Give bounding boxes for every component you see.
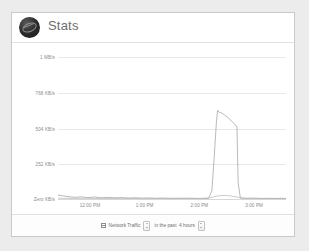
y-axis-label: 252 KB/s <box>36 162 58 167</box>
page-title: Stats <box>48 18 79 33</box>
x-axis-label: 3:00 PM <box>245 203 263 208</box>
y-axis-label: 768 KB/s <box>36 90 58 95</box>
avatar-circle-icon <box>19 17 40 38</box>
stats-panel: Stats 1 MB/s768 KB/s504 KB/s252 KB/sZero… <box>11 12 295 237</box>
range-value: 4 hours <box>179 223 195 228</box>
x-axis-label: 12:00 PM <box>80 203 100 208</box>
series-line <box>58 110 286 198</box>
chart-icon <box>101 223 106 228</box>
chart-area: 1 MB/s768 KB/s504 KB/s252 KB/sZero KB/s … <box>12 43 294 214</box>
time-range-selector[interactable]: in the past 4 hours <box>154 221 205 231</box>
range-stepper-icon[interactable] <box>198 221 206 231</box>
y-axis-label: Zero KB/s <box>34 197 58 202</box>
metric-label: Network Traffic <box>108 223 140 228</box>
y-axis-label: 504 KB/s <box>36 127 58 132</box>
chart-controls-bar: Network Traffic in the past 4 hours <box>12 214 294 236</box>
chart-x-axis: 12:00 PM1:00 PM2:00 PM3:00 PM <box>58 203 286 213</box>
past-label: in the past <box>154 223 176 228</box>
metric-selector[interactable]: Network Traffic <box>101 221 150 231</box>
x-axis-label: 1:00 PM <box>136 203 154 208</box>
chart-plot <box>58 43 286 214</box>
x-axis-label: 2:00 PM <box>190 203 208 208</box>
panel-header: Stats <box>12 13 294 43</box>
y-axis-label: 1 MB/s <box>40 55 58 60</box>
metric-stepper-icon[interactable] <box>143 221 151 231</box>
